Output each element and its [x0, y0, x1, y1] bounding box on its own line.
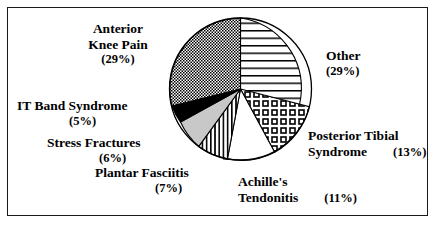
- slice-pct-posterior-tibial-syndrome: (13%): [393, 145, 426, 159]
- slice-label-achilles-tendonitis-line2: Tendonitis(11%): [238, 190, 388, 207]
- slice-label-achilles-tendonitis: Achille's Tendonitis(11%): [238, 174, 388, 206]
- slice-label-posterior-tibial-syndrome-line2: Syndrome(13%): [308, 144, 440, 161]
- slice-pct-achilles-tendonitis: (11%): [324, 191, 357, 205]
- slice-pct-stress-fractures: (6%): [47, 151, 197, 167]
- slice-label-it-band-syndrome-line1: IT Band Syndrome: [17, 98, 197, 114]
- slice-label-other-line1: Other: [326, 48, 416, 64]
- slice-pct-other: (29%): [326, 64, 416, 80]
- slice-label-stress-fractures: Stress Fractures (6%): [47, 135, 197, 166]
- pie-chart-figure: Anterior Knee Pain (29%) Other (29%) IT …: [0, 0, 440, 227]
- slice-label-plantar-fasciitis: Plantar Fasciitis (7%): [95, 165, 245, 196]
- slice-label-posterior-tibial-syndrome-line2-text: Syndrome: [308, 144, 367, 159]
- slice-label-posterior-tibial-syndrome: Posterior Tibial Syndrome(13%): [308, 128, 440, 160]
- slice-pct-it-band-syndrome: (5%): [17, 114, 197, 130]
- slice-label-anterior-knee-pain-line2: Knee Pain: [62, 37, 174, 53]
- slice-label-posterior-tibial-syndrome-line1: Posterior Tibial: [308, 128, 440, 144]
- slice-label-achilles-tendonitis-line1: Achille's: [238, 174, 388, 190]
- slice-label-anterior-knee-pain: Anterior Knee Pain (29%): [62, 21, 174, 68]
- slice-label-other: Other (29%): [326, 48, 416, 79]
- slice-label-plantar-fasciitis-line1: Plantar Fasciitis: [95, 165, 245, 181]
- slice-label-stress-fractures-line1: Stress Fractures: [47, 135, 197, 151]
- slice-label-anterior-knee-pain-line1: Anterior: [62, 21, 174, 37]
- slice-label-it-band-syndrome: IT Band Syndrome (5%): [17, 98, 197, 129]
- slice-pct-plantar-fasciitis: (7%): [95, 181, 245, 197]
- slice-label-achilles-tendonitis-line2-text: Tendonitis: [238, 190, 298, 205]
- slice-pct-anterior-knee-pain: (29%): [62, 52, 174, 68]
